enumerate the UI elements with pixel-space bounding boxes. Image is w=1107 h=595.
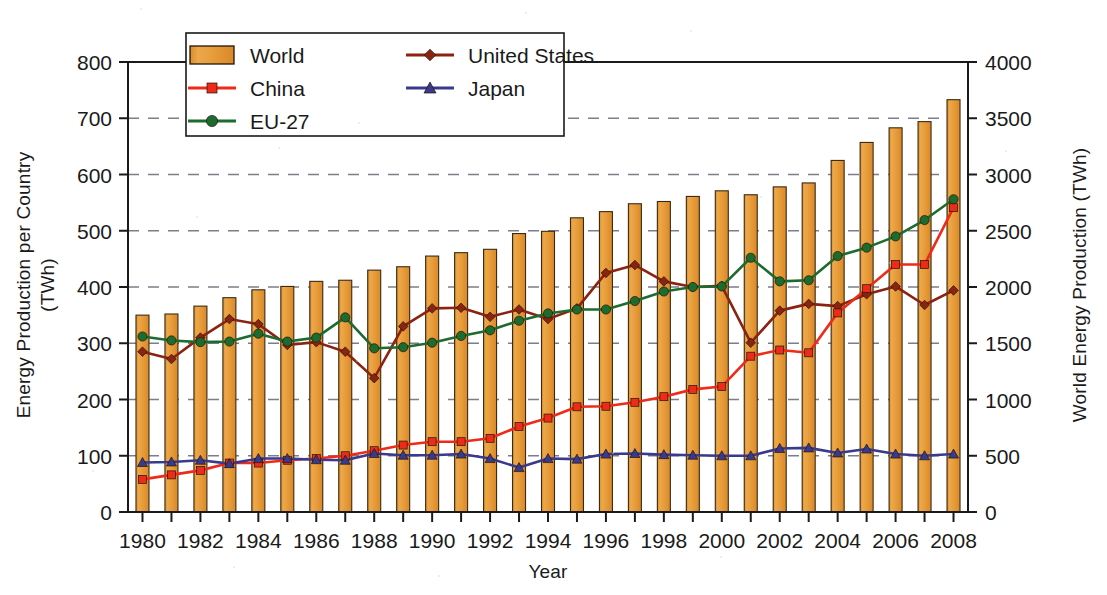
scan-speck — [278, 147, 280, 149]
y2-tick-label: 0 — [985, 501, 997, 524]
bar-world — [686, 196, 699, 512]
data-point-circle — [514, 316, 523, 325]
scan-speck — [438, 575, 440, 577]
y2-tick-label: 4000 — [985, 51, 1032, 74]
y2-tick-label: 3500 — [985, 107, 1032, 130]
x-tick-label: 1980 — [119, 529, 166, 552]
y-tick-label: 500 — [77, 220, 112, 243]
chart-legend: WorldUnited StatesChinaJapanEU-27 — [186, 33, 594, 136]
data-point-square — [515, 423, 523, 431]
legend-label: World — [250, 44, 304, 67]
x-tick-label: 2000 — [698, 529, 745, 552]
x-tick-label: 1990 — [409, 529, 456, 552]
data-point-square — [399, 441, 407, 449]
legend-swatch-bar — [190, 46, 234, 64]
x-tick-label: 2006 — [872, 529, 919, 552]
data-point-square — [834, 309, 842, 317]
data-point-circle — [138, 332, 147, 341]
data-point-square — [689, 385, 697, 393]
bar-world — [368, 270, 381, 512]
legend-label: United States — [468, 44, 594, 67]
scan-speck — [233, 566, 235, 568]
y-tick-label: 300 — [77, 332, 112, 355]
legend-label: EU-27 — [250, 110, 310, 133]
data-point-square — [486, 434, 494, 442]
y-tick-label: 100 — [77, 445, 112, 468]
scan-speck — [760, 196, 762, 198]
y-tick-label: 800 — [77, 51, 112, 74]
x-tick-label: 1998 — [641, 529, 688, 552]
data-point-circle — [572, 305, 581, 314]
data-point-square — [138, 475, 146, 483]
scan-speck — [140, 8, 142, 10]
x-tick-label: 2008 — [930, 529, 977, 552]
data-point-circle — [485, 326, 494, 335]
scan-speck — [612, 452, 614, 454]
data-point-square — [660, 393, 668, 401]
y2-tick-label: 2500 — [985, 220, 1032, 243]
x-tick-label: 2004 — [814, 529, 861, 552]
data-point-square — [167, 471, 175, 479]
bar-world — [599, 212, 612, 512]
bar-world — [426, 256, 439, 512]
data-point-square — [950, 204, 958, 212]
bar-world — [860, 142, 873, 512]
data-point-circle — [225, 337, 234, 346]
data-point-circle — [283, 337, 292, 346]
y2-axis-title: World Energy Production (TWh) — [1069, 148, 1090, 423]
data-point-circle — [833, 251, 842, 260]
scan-speck — [720, 556, 722, 558]
x-tick-label: 1996 — [583, 529, 630, 552]
data-point-circle — [206, 115, 217, 126]
data-point-circle — [804, 276, 813, 285]
data-point-circle — [920, 215, 929, 224]
data-point-circle — [428, 338, 437, 347]
legend-label: China — [250, 77, 305, 100]
bar-world — [657, 202, 670, 513]
scan-speck — [690, 30, 692, 32]
bar-world — [831, 160, 844, 512]
data-point-square — [776, 346, 784, 354]
bar-world — [542, 231, 555, 512]
data-point-square — [207, 83, 217, 93]
data-point-square — [892, 261, 900, 269]
data-point-square — [602, 402, 610, 410]
scan-speck — [358, 122, 360, 124]
scan-speck — [356, 360, 358, 362]
data-point-circle — [630, 296, 639, 305]
data-point-circle — [399, 343, 408, 352]
data-point-circle — [746, 253, 755, 262]
data-point-circle — [688, 282, 697, 291]
scan-speck — [196, 216, 198, 218]
data-point-square — [631, 398, 639, 406]
y-axis-title-line2: (TWh) — [37, 258, 58, 312]
data-point-square — [573, 403, 581, 411]
bar-world — [281, 286, 294, 512]
scan-speck — [92, 470, 94, 472]
scan-speck — [1005, 150, 1007, 152]
legend-label: Japan — [468, 77, 525, 100]
data-point-square — [921, 261, 929, 269]
bar-world — [715, 191, 728, 512]
bar-world — [397, 267, 410, 512]
data-point-circle — [775, 277, 784, 286]
x-tick-label: 1984 — [235, 529, 282, 552]
data-point-square — [196, 466, 204, 474]
x-tick-label: 1992 — [467, 529, 514, 552]
data-point-circle — [862, 243, 871, 252]
y-tick-label: 400 — [77, 276, 112, 299]
scan-speck — [525, 12, 527, 14]
data-point-circle — [341, 313, 350, 322]
bar-world — [628, 204, 641, 512]
data-point-square — [863, 285, 871, 293]
data-point-circle — [891, 232, 900, 241]
scan-speck — [889, 262, 891, 264]
y-tick-label: 700 — [77, 107, 112, 130]
data-point-square — [457, 438, 465, 446]
x-tick-label: 1994 — [525, 529, 572, 552]
x-tick-label: 1986 — [293, 529, 340, 552]
x-tick-label: 1982 — [177, 529, 224, 552]
y2-tick-label: 2000 — [985, 276, 1032, 299]
data-point-circle — [659, 287, 668, 296]
data-point-circle — [312, 333, 321, 342]
